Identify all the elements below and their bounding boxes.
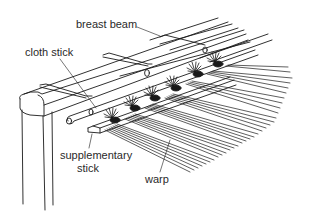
- label-supplementary-stick-line2: stick: [77, 163, 99, 174]
- loom-illustration: [0, 0, 310, 223]
- label-cloth-stick: cloth stick: [25, 47, 73, 58]
- label-breast-beam: breast beam: [76, 19, 137, 30]
- warp-threads: [105, 65, 292, 172]
- upper-threads: [120, 18, 272, 76]
- label-warp: warp: [145, 174, 169, 185]
- label-supplementary-stick-line1: supplementary: [60, 150, 132, 161]
